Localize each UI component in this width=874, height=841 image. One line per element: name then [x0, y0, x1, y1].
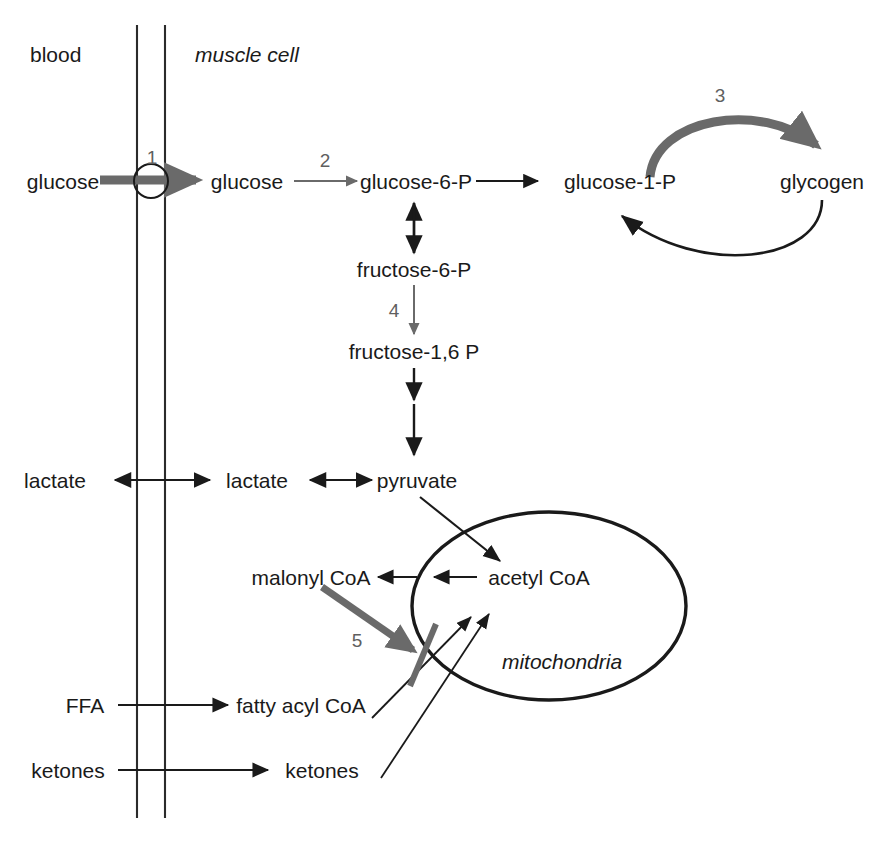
metabolite-lactate-blood: lactate — [24, 470, 86, 491]
step-number-2: 2 — [320, 151, 331, 170]
metabolite-glycogen: glycogen — [780, 171, 864, 192]
step-number-5: 5 — [352, 631, 363, 650]
metabolite-fructose-1-6-p: fructose-1,6 P — [349, 341, 480, 362]
metabolite-pyruvate: pyruvate — [377, 470, 458, 491]
mitochondria-label: mitochondria — [502, 651, 622, 672]
glycogenolysis-arrow — [622, 200, 822, 255]
step-number-1: 1 — [147, 148, 158, 167]
metabolite-ketones-blood: ketones — [31, 760, 105, 781]
glucose-transport-arrow — [100, 164, 196, 198]
metabolite-acetyl-coa: acetyl CoA — [488, 567, 590, 588]
metabolite-fatty-acyl-coa: fatty acyl CoA — [236, 695, 366, 716]
blood-compartment-label: blood — [30, 44, 81, 65]
metabolite-glucose-blood: glucose — [27, 171, 99, 192]
metabolite-ffa-blood: FFA — [66, 695, 105, 716]
step-number-3: 3 — [715, 86, 726, 105]
glycogen-synthesis-arrow — [650, 120, 816, 177]
metabolite-glucose-cell: glucose — [211, 171, 283, 192]
diagram-vector-layer — [0, 0, 874, 841]
metabolism-figure: blood muscle cell glucose glucose glucos… — [0, 0, 874, 841]
cell-membrane — [137, 25, 165, 818]
metabolite-glucose-1-p: glucose-1-P — [564, 171, 676, 192]
metabolite-fructose-6-p: fructose-6-P — [357, 259, 471, 280]
metabolite-lactate-cell: lactate — [226, 470, 288, 491]
metabolite-ketones-cell: ketones — [285, 760, 359, 781]
metabolite-glucose-6-p: glucose-6-P — [360, 171, 472, 192]
step-number-4: 4 — [389, 301, 400, 320]
pyruvate-to-acetyl-coa-arrow — [420, 497, 500, 561]
muscle-cell-compartment-label: muscle cell — [195, 44, 299, 65]
metabolite-malonyl-coa: malonyl CoA — [251, 567, 370, 588]
